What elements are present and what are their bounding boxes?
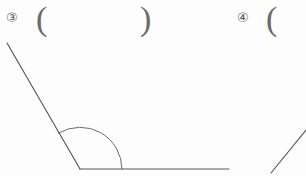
problem-3-angle-figure [7, 43, 229, 169]
worksheet-page: ③ ( ) ④ ( [0, 0, 306, 176]
partial-ray [271, 130, 306, 173]
angle-upper-ray [7, 43, 80, 169]
geometry-figures [0, 0, 306, 176]
problem-4-partial-figure [271, 130, 306, 173]
